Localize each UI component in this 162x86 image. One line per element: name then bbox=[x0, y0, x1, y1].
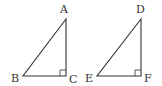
right-angle-marker-f bbox=[135, 70, 141, 76]
right-angle-marker-c bbox=[60, 70, 66, 76]
vertex-label-f: F bbox=[144, 72, 152, 85]
vertex-label-d: D bbox=[136, 3, 145, 16]
triangle-def: D E F bbox=[85, 3, 152, 85]
triangle-abc: A B C bbox=[11, 3, 77, 86]
triangles-diagram: A B C D E F bbox=[0, 0, 162, 86]
vertex-label-e: E bbox=[85, 72, 93, 85]
triangle-def-outline bbox=[97, 19, 141, 76]
triangle-abc-outline bbox=[23, 19, 66, 76]
vertex-label-a: A bbox=[59, 3, 69, 16]
vertex-label-b: B bbox=[11, 72, 19, 85]
vertex-label-c: C bbox=[69, 73, 77, 86]
